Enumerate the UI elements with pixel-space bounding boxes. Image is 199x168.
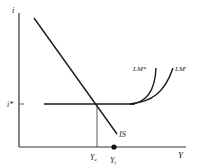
is-label: IS (118, 130, 126, 139)
lm-star-curve (130, 68, 156, 104)
yf-label: Yf (110, 156, 116, 165)
lm-prime-curve (130, 68, 173, 104)
x-axis-label: Y (178, 150, 184, 160)
is-lm-diagram: i Y i* IS LM* LM' Ye Yf (0, 0, 199, 168)
y-axis-label: i (12, 5, 15, 15)
is-curve (34, 18, 117, 134)
lm-star-label: LM* (132, 65, 147, 73)
yf-point (111, 144, 116, 149)
interest-rate-label: i* (7, 100, 13, 109)
lm-prime-label: LM' (174, 65, 187, 73)
ye-label: Ye (90, 153, 97, 162)
